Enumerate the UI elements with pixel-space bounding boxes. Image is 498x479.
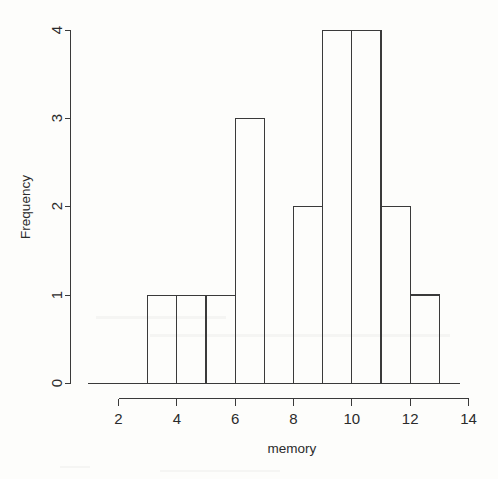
histogram-bar — [352, 30, 381, 383]
x-axis-title: memory — [268, 441, 317, 456]
histogram-bar — [323, 30, 352, 383]
y-tick-label-2: 2 — [48, 202, 65, 210]
x-tick-label-6: 6 — [231, 410, 239, 427]
y-tick-label-3: 3 — [48, 114, 65, 122]
x-tick-label-10: 10 — [343, 410, 360, 427]
histogram-bar-empty — [294, 207, 323, 383]
y-tick-label-0: 0 — [48, 379, 65, 387]
histogram-bar — [411, 295, 440, 383]
x-tick-label-8: 8 — [289, 410, 297, 427]
histogram-bar — [206, 295, 235, 383]
histogram-bar — [177, 295, 206, 383]
y-tick-label-1: 1 — [48, 291, 65, 299]
histogram-plot: 0 1 2 3 4 Frequency — [0, 0, 498, 479]
y-tick-label-4: 4 — [48, 26, 65, 34]
x-tick-label-14: 14 — [460, 410, 477, 427]
histogram-bar — [235, 119, 264, 384]
histogram-bar — [410, 295, 439, 383]
histogram-bar — [148, 295, 177, 383]
y-axis: 0 1 2 3 4 Frequency — [18, 26, 71, 387]
y-axis-title: Frequency — [18, 175, 33, 239]
x-tick-label-4: 4 — [173, 410, 181, 427]
x-tick-label-12: 12 — [402, 410, 419, 427]
x-axis: 2 4 6 8 10 12 14 memory — [114, 399, 477, 457]
histogram-bars — [148, 30, 440, 383]
x-tick-label-2: 2 — [114, 410, 122, 427]
histogram-figure: 0 1 2 3 4 Frequency — [0, 0, 498, 479]
histogram-bar — [381, 207, 410, 383]
scan-artifacts — [60, 316, 450, 472]
